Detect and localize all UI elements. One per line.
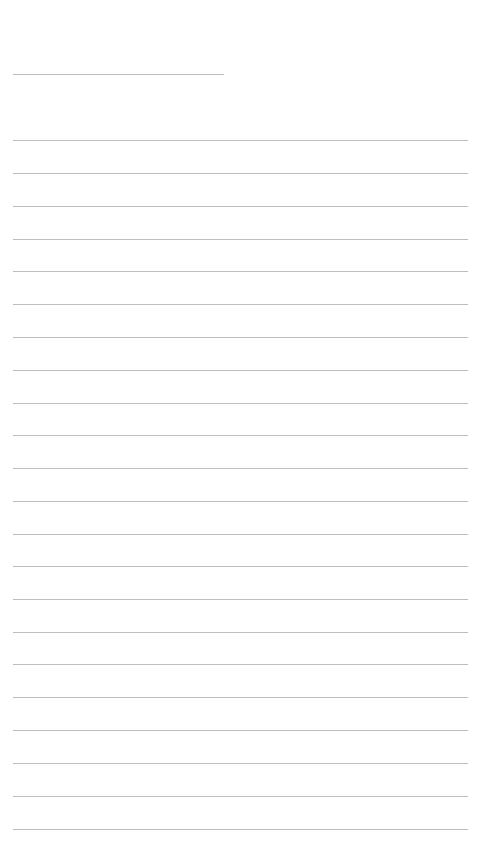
- ruled-line: [13, 173, 468, 174]
- ruled-line: [13, 337, 468, 338]
- ruled-line: [13, 632, 468, 633]
- ruled-line: [13, 501, 468, 502]
- ruled-line: [13, 304, 468, 305]
- ruled-line: [13, 370, 468, 371]
- lined-paper-page: [0, 0, 491, 856]
- ruled-line: [13, 599, 468, 600]
- ruled-line: [13, 435, 468, 436]
- ruled-line: [13, 664, 468, 665]
- ruled-line: [13, 468, 468, 469]
- ruled-line: [13, 566, 468, 567]
- ruled-line: [13, 796, 468, 797]
- ruled-line: [13, 140, 468, 141]
- ruled-line: [13, 763, 468, 764]
- ruled-line: [13, 697, 468, 698]
- ruled-line: [13, 271, 468, 272]
- ruled-line: [13, 829, 468, 830]
- ruled-line: [13, 534, 468, 535]
- ruled-line: [13, 403, 468, 404]
- header-rule: [13, 74, 224, 75]
- ruled-line: [13, 239, 468, 240]
- ruled-line: [13, 730, 468, 731]
- ruled-line: [13, 206, 468, 207]
